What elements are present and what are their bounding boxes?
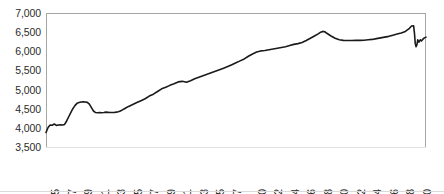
- y-axis-tick-label: 6,000: [15, 46, 41, 57]
- page-bottom-rule: [0, 191, 444, 192]
- data-series-line: [46, 26, 426, 133]
- x-axis-baseline: [46, 147, 426, 148]
- y-axis-tick-label: 6,500: [15, 27, 41, 38]
- x-axis-tick-labels: 1975197719791981198319851987198919911993…: [0, 149, 444, 194]
- y-axis-tick-label: 5,500: [15, 65, 41, 76]
- y-axis-tick-label: 7,000: [15, 8, 41, 19]
- line-chart: 7,0006,5006,0005,5005,0004,5004,0003,500…: [0, 0, 444, 194]
- y-axis-tick-label: 4,000: [15, 123, 41, 134]
- plot-area: [46, 13, 426, 147]
- y-axis-tick-label: 4,500: [15, 104, 41, 115]
- y-axis-tick-label: 5,000: [15, 85, 41, 96]
